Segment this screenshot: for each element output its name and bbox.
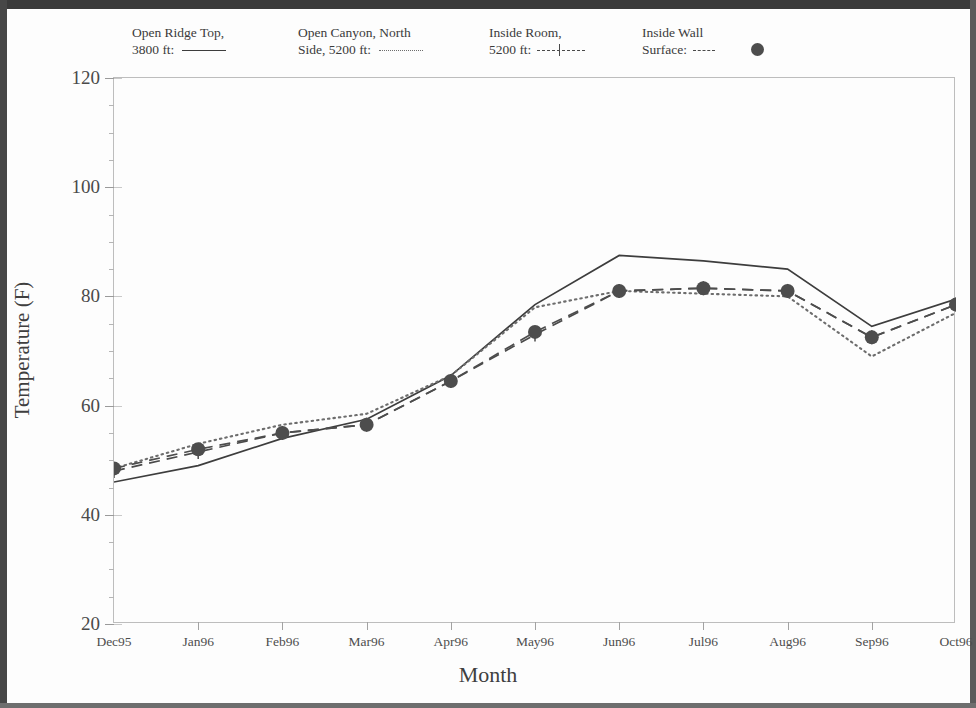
legend-label-line2-row: 3800 ft: [132,41,232,58]
y-axis-minor-tick [109,569,114,570]
y-axis-minor-tick [109,488,114,489]
y-axis-minor-tick [109,460,114,461]
y-axis-tick-label: 120 [72,67,101,89]
x-axis-tick-label: Oct96 [940,634,973,650]
y-axis-minor-tick [109,269,114,270]
x-axis-tick-label: May96 [516,634,554,650]
series-point-marker [696,281,710,295]
series-line [114,288,956,471]
legend-entry-inside-room: Inside Room, 5200 ft: [489,24,589,58]
x-axis-tick-label: Jul96 [689,634,718,650]
y-axis-tick [105,187,114,188]
scan-border-top [0,0,976,9]
y-axis-tick-label: 40 [81,504,100,526]
x-axis-tick-label: Aug96 [769,634,806,650]
y-axis-tick [105,515,114,516]
y-axis-tick [105,406,114,407]
legend-entry-open-ridge-top: Open Ridge Top, 3800 ft: [132,24,232,58]
circle-marker-sample-icon [751,43,764,56]
scan-border-bottom [0,703,976,708]
y-axis-minor-tick [109,105,114,106]
x-axis-tick [619,622,620,630]
scan-border-left [0,0,7,708]
legend-label-line1: Inside Wall [642,24,764,41]
series-line [114,255,956,482]
legend-label-line1: Open Ridge Top, [132,24,232,41]
series-point-marker [444,374,458,388]
legend-entry-inside-wall-surface: Inside Wall Surface: [642,24,764,58]
legend-label-line2: Surface: [642,41,687,58]
x-axis-tick-label: Apr96 [434,634,469,650]
y-axis-minor-tick [109,160,114,161]
legend-entry-open-canyon: Open Canyon, North Side, 5200 ft: [298,24,429,58]
x-axis-tick-label: Dec95 [96,634,131,650]
dashed-tick-line-sample-icon [537,44,589,56]
y-axis-tick [105,624,114,625]
legend-label-line2: 3800 ft: [132,41,174,58]
series-point-marker [612,284,626,298]
dotted-line-sample-icon [377,44,429,56]
y-axis-tick-label: 60 [81,395,100,417]
x-axis-tick-label: Feb96 [266,634,300,650]
y-axis-minor-tick [109,542,114,543]
x-axis-tick-label: Mar96 [349,634,385,650]
x-axis-tick [282,622,283,630]
x-axis-tick [535,622,536,630]
x-axis-tick-label: Sep96 [855,634,889,650]
legend-label-line2: 5200 ft: [489,41,531,58]
series-line [114,288,956,468]
x-axis-tick [198,622,199,630]
x-axis-tick [451,622,452,630]
series-point-marker [360,418,374,432]
legend-label-line1: Open Canyon, North [298,24,429,41]
x-axis-tick [367,622,368,630]
legend-label-line2: Side, 5200 ft: [298,41,371,58]
x-axis-tick [788,622,789,630]
y-axis-minor-tick [109,378,114,379]
y-axis-tick-label: 80 [81,285,100,307]
series-point-marker [528,325,542,339]
x-axis-tick [703,622,704,630]
dashed-line-sample-icon [693,44,745,56]
y-axis-tick-label: 100 [72,176,101,198]
series-point-marker [191,442,205,456]
series-point-marker [781,284,795,298]
y-axis-tick [105,78,114,79]
y-axis-title: Temperature (F) [10,282,35,419]
y-axis-minor-tick [109,324,114,325]
y-axis-minor-tick [109,433,114,434]
y-axis-tick-inner [114,187,122,188]
y-axis-tick-inner [114,406,122,407]
series-point-marker [275,426,289,440]
x-axis-tick-label: Jan96 [182,634,214,650]
y-axis-tick [105,296,114,297]
plot-area: 20406080100120Dec95Jan96Feb96Mar96Apr96M… [113,77,955,623]
plot-inner: 20406080100120Dec95Jan96Feb96Mar96Apr96M… [114,78,954,622]
series-canvas [114,78,956,624]
legend-label-line2-row: Side, 5200 ft: [298,41,429,58]
y-axis-tick-inner [114,624,122,625]
solid-line-sample-icon [180,44,232,56]
legend-label-line2-row: Surface: [642,41,764,58]
y-axis-tick-inner [114,78,122,79]
scan-border-right [970,0,976,708]
x-axis-title: Month [0,662,976,688]
series-point-marker [949,298,956,312]
y-axis-minor-tick [109,351,114,352]
chart-legend: Open Ridge Top, 3800 ft: Open Canyon, No… [132,24,832,68]
y-axis-tick-label: 20 [81,613,100,635]
y-axis-minor-tick [109,133,114,134]
y-axis-minor-tick [109,597,114,598]
legend-label-line1: Inside Room, [489,24,589,41]
chart-page: Open Ridge Top, 3800 ft: Open Canyon, No… [0,0,976,708]
y-axis-tick-inner [114,515,122,516]
y-axis-minor-tick [109,215,114,216]
series-point-marker [114,461,121,475]
series-point-marker [865,330,879,344]
legend-label-line2-row: 5200 ft: [489,41,589,58]
x-axis-tick-label: Jun96 [603,634,635,650]
y-axis-tick-inner [114,296,122,297]
y-axis-minor-tick [109,242,114,243]
x-axis-tick [872,622,873,630]
